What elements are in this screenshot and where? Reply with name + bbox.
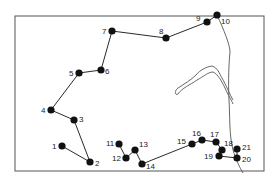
point-label: 8 [159, 27, 164, 36]
point-dot [58, 142, 65, 149]
point-10: 10 [213, 11, 230, 26]
point-label: 14 [146, 162, 155, 171]
point-label: 4 [41, 106, 46, 115]
point-dot [215, 152, 222, 159]
point-label: 7 [102, 27, 107, 36]
point-dot [188, 140, 195, 147]
point-label: 3 [79, 115, 84, 124]
point-dot [108, 27, 115, 34]
point-dot [213, 11, 220, 18]
point-dot [203, 18, 210, 25]
point-dot [97, 66, 104, 73]
point-label: 17 [210, 130, 219, 139]
point-14: 14 [138, 160, 155, 171]
point-dot [138, 160, 145, 167]
point-label: 10 [221, 17, 230, 26]
point-label: 11 [106, 139, 115, 148]
point-label: 20 [242, 155, 251, 164]
point-13: 13 [131, 140, 148, 154]
point-label: 9 [196, 14, 201, 23]
point-label: 16 [192, 129, 201, 138]
point-6: 6 [97, 66, 110, 76]
connect-the-dots-diagram: 123456789101112131415161718192021 [0, 0, 279, 185]
point-dot [162, 34, 169, 41]
point-dot [131, 146, 138, 153]
point-21: 21 [233, 143, 251, 153]
point-20: 20 [233, 154, 251, 164]
point-label: 18 [224, 139, 233, 148]
point-7: 7 [102, 27, 116, 36]
point-2: 2 [86, 158, 100, 168]
point-12: 12 [112, 154, 130, 163]
point-dot [233, 154, 240, 161]
point-3: 3 [70, 115, 84, 124]
point-dot [115, 140, 122, 147]
point-label: 6 [105, 67, 110, 76]
point-17: 17 [210, 130, 220, 146]
point-label: 1 [52, 142, 57, 151]
point-label: 12 [112, 154, 121, 163]
point-11: 11 [106, 139, 123, 148]
point-label: 19 [204, 152, 213, 161]
connecting-line-1 [51, 15, 217, 162]
point-dot [47, 106, 54, 113]
point-19: 19 [204, 152, 223, 161]
point-label: 2 [95, 159, 100, 168]
point-dot [122, 154, 129, 161]
inlet-outline [175, 66, 233, 104]
point-18: 18 [218, 139, 233, 154]
point-1: 1 [52, 142, 66, 151]
point-label: 13 [139, 140, 148, 149]
point-8: 8 [159, 27, 170, 42]
point-dot [233, 145, 240, 152]
point-4: 4 [41, 106, 55, 115]
point-dot [86, 158, 93, 165]
point-label: 5 [69, 69, 74, 78]
point-dot [212, 138, 219, 145]
point-label: 15 [177, 137, 186, 146]
point-dot [70, 116, 77, 123]
point-dot [75, 69, 82, 76]
point-label: 21 [242, 143, 251, 152]
